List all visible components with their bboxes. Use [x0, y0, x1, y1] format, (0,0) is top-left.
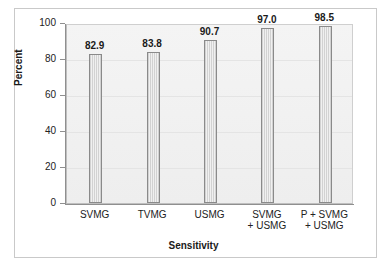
x-axis-tick-label: SVMG — [63, 209, 127, 220]
bar-value-label: 97.0 — [245, 14, 289, 25]
bar-value-label: 98.5 — [302, 12, 346, 23]
y-axis-tick — [60, 23, 65, 24]
bar-value-label: 90.7 — [188, 26, 232, 37]
x-axis-tick-label: TVMG — [120, 209, 184, 220]
bar — [261, 28, 274, 203]
x-axis-tick-label: USMG — [178, 209, 242, 220]
bar-value-label: 82.9 — [73, 40, 117, 51]
plot-area — [66, 24, 353, 204]
bar — [89, 54, 102, 203]
bar-value-label: 83.8 — [130, 38, 174, 49]
bar — [147, 52, 160, 203]
y-axis-tick-label: 20 — [26, 161, 56, 172]
chart-figure: 020406080100 Percent SVMGTVMGUSMGSVMG + … — [0, 0, 387, 268]
y-axis-title: Percent — [13, 49, 24, 86]
x-axis-line — [65, 204, 354, 205]
y-axis-tick-label: 100 — [26, 17, 56, 28]
bar — [204, 40, 217, 203]
y-axis-tick — [60, 131, 65, 132]
x-axis-tick-label: SVMG + USMG — [235, 209, 299, 231]
y-axis-tick-label: 60 — [26, 89, 56, 100]
y-axis-tick — [60, 167, 65, 168]
x-axis-tick-label: P + SVMG + USMG — [292, 209, 356, 231]
y-axis-line — [65, 24, 66, 205]
bar — [319, 26, 332, 203]
y-axis-tick-label: 80 — [26, 53, 56, 64]
x-axis-title: Sensitivity — [0, 240, 387, 251]
y-axis-tick — [60, 95, 65, 96]
y-axis-tick-label: 40 — [26, 125, 56, 136]
y-axis-tick — [60, 59, 65, 60]
y-axis-tick-label: 0 — [26, 197, 56, 208]
